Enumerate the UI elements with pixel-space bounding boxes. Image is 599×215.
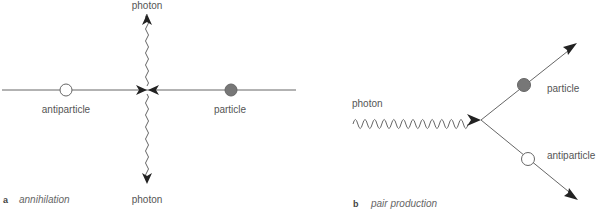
label-particle: particle: [214, 104, 247, 115]
feynman-diagrams: photon antiparticle particle photon a an…: [0, 0, 599, 215]
label-particle: particle: [547, 83, 580, 94]
panel-letter-a: a: [3, 195, 9, 205]
arrowhead-up-icon: [142, 14, 152, 25]
label-photon-top: photon: [132, 0, 163, 11]
antiparticle-circle-icon: [60, 84, 72, 96]
particle-circle-icon: [518, 79, 531, 92]
label-antiparticle: antiparticle: [547, 150, 596, 161]
antiparticle-circle-icon: [522, 153, 535, 166]
photon-wave-top: [146, 14, 149, 86]
photon-wave-incoming: [353, 120, 468, 129]
label-photon-bottom: photon: [132, 194, 163, 205]
panel-b-pair-production: photon particle antiparticle b pair prod…: [352, 43, 596, 209]
label-antiparticle: antiparticle: [42, 104, 91, 115]
particle-circle-icon: [225, 84, 237, 96]
caption-pair-production: pair production: [370, 198, 438, 209]
caption-annihilation: annihilation: [19, 194, 70, 205]
arrowhead-down-icon: [142, 173, 152, 184]
panel-letter-b: b: [353, 199, 359, 209]
photon-wave-bottom: [146, 94, 149, 178]
arrowhead-right-icon: [467, 114, 481, 126]
panel-a-annihilation: photon antiparticle particle photon a an…: [2, 0, 296, 205]
label-photon: photon: [352, 98, 383, 109]
